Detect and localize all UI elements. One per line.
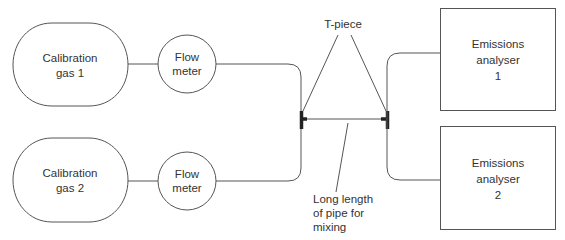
gas-2-label-line2: gas 2 — [56, 182, 84, 194]
tpiece-label: T-piece — [324, 18, 362, 30]
emissions-analyser-2-node: Emissions analyser 2 — [441, 127, 556, 230]
analyser-1-label-line2: analyser — [476, 54, 520, 66]
calibration-gas-2-node: Calibration gas 2 — [13, 138, 128, 222]
flow-meter-1-node: Flow meter — [158, 35, 216, 93]
mixing-label-line1: Long length — [313, 193, 373, 205]
mixing-leader — [336, 123, 348, 192]
pipe-right-tpiece-to-analysers — [387, 53, 440, 180]
pipe-flow-meters-to-left-tpiece — [216, 64, 301, 181]
gas-2-label-line1: Calibration — [43, 167, 98, 179]
emissions-analyser-1-node: Emissions analyser 1 — [441, 9, 556, 111]
mixing-label-line3: mixing — [313, 221, 346, 233]
flow-meter-2-label-line1: Flow — [175, 168, 200, 180]
mixing-label-line2: of pipe for — [313, 207, 364, 219]
calibration-diagram: Calibration gas 1 Calibration gas 2 Flow… — [0, 0, 565, 240]
flow-meter-1-label-line2: meter — [172, 65, 202, 77]
analyser-1-label-line3: 1 — [495, 70, 501, 82]
gas-1-label-line2: gas 1 — [56, 67, 84, 79]
tpiece-leader-right — [351, 35, 386, 111]
tpiece-leader-left — [303, 35, 338, 111]
analyser-1-label-line1: Emissions — [472, 38, 525, 50]
gas-1-label-line1: Calibration — [43, 52, 98, 64]
flow-meter-2-label-line2: meter — [172, 182, 202, 194]
calibration-gas-1-node: Calibration gas 1 — [13, 23, 128, 106]
flow-meter-1-label-line1: Flow — [175, 51, 200, 63]
analyser-2-label-line3: 2 — [495, 189, 501, 201]
flow-meter-2-node: Flow meter — [158, 152, 216, 210]
analyser-2-label-line1: Emissions — [472, 157, 525, 169]
analyser-2-label-line2: analyser — [476, 173, 520, 185]
